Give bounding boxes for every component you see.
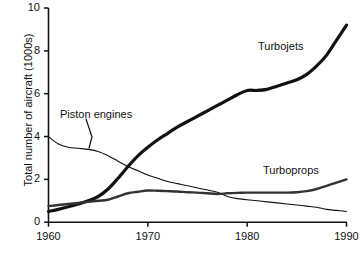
x-axis-tick-label: 1960	[27, 231, 71, 242]
series-label-piston-engines: Piston engines	[60, 108, 132, 120]
annotation-leader-lines	[86, 119, 92, 148]
y-axis-tick-label: 0	[8, 216, 40, 227]
y-axis-tick-label: 8	[8, 45, 40, 56]
y-axis-tick-label: 10	[8, 2, 40, 13]
y-axis-tick-label: 2	[8, 173, 40, 184]
piston-engines-leader-line	[86, 119, 92, 148]
x-axis-tick-label: 1970	[126, 231, 170, 242]
y-axis-tick-label: 6	[8, 88, 40, 99]
series-label-turboprops: Turboprops	[263, 164, 319, 176]
series-label-turbojets: Turbojets	[258, 40, 303, 52]
x-axis-tick-label: 1980	[225, 231, 269, 242]
x-axis-tick-label: 1990	[325, 231, 363, 242]
y-axis-tick-label: 4	[8, 131, 40, 142]
series-line-turboprops	[49, 179, 347, 206]
